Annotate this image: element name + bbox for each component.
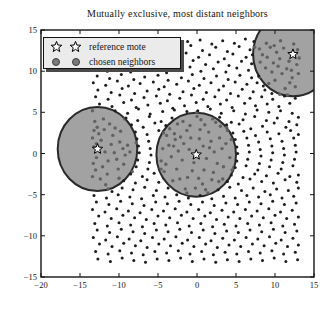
- neighbor-dot: [290, 69, 293, 72]
- mote-dot: [121, 187, 124, 190]
- neighbor-dot: [186, 176, 189, 179]
- mote-dot: [139, 239, 142, 242]
- mote-dot: [221, 209, 224, 212]
- mote-dot: [175, 193, 178, 196]
- y-tick-label: 5: [33, 107, 37, 117]
- mote-dot: [155, 94, 158, 97]
- mote-dot: [136, 119, 139, 122]
- mote-dot: [98, 243, 101, 246]
- neighbor-dot: [221, 177, 224, 180]
- mote-dot: [132, 230, 135, 233]
- mote-dot: [243, 102, 246, 105]
- mote-dot: [130, 99, 133, 102]
- mote-dot: [238, 217, 241, 220]
- mote-dot: [210, 43, 213, 46]
- mote-dot: [276, 117, 279, 120]
- mote-dot: [232, 109, 235, 112]
- mote-dot: [220, 112, 223, 115]
- mote-dot: [281, 161, 284, 164]
- mote-dot: [257, 196, 260, 199]
- neighbor-dot: [194, 186, 197, 189]
- mote-dot: [153, 222, 156, 225]
- mote-dot: [260, 230, 263, 233]
- mote-dot: [138, 151, 141, 154]
- mote-dot: [140, 197, 143, 200]
- mote-dot: [240, 60, 243, 63]
- neighbor-dot: [195, 115, 198, 118]
- neighbor-dot: [202, 168, 205, 171]
- mote-dot: [131, 202, 134, 205]
- neighbor-dot: [181, 120, 184, 123]
- mote-dot: [262, 85, 265, 88]
- mote-dot: [238, 45, 241, 48]
- mote-dot: [256, 210, 259, 213]
- mote-dot: [180, 214, 183, 217]
- mote-dot: [189, 44, 192, 47]
- mote-dot: [244, 38, 247, 41]
- x-tick-label: 0: [195, 280, 199, 290]
- mote-dot: [181, 242, 184, 245]
- mote-dot: [270, 221, 273, 224]
- mote-dot: [146, 103, 149, 106]
- neighbor-dot: [92, 162, 95, 165]
- neighbor-dot: [203, 123, 206, 126]
- mote-dot: [161, 110, 164, 113]
- mote-dot: [260, 155, 263, 158]
- mote-dot: [271, 151, 274, 154]
- neighbor-dot: [209, 140, 212, 143]
- mote-dot: [175, 83, 178, 86]
- mote-dot: [274, 214, 277, 217]
- y-tick-label: −15: [24, 272, 37, 282]
- mote-dot: [249, 48, 252, 51]
- neighbor-dot: [165, 134, 168, 137]
- mote-dot: [294, 144, 297, 147]
- neighbor-dot: [182, 142, 185, 145]
- mote-dot: [137, 145, 140, 148]
- neighbor-dot: [122, 163, 125, 166]
- x-tick-label: −15: [73, 280, 86, 290]
- mote-dot: [108, 231, 111, 234]
- mote-dot: [157, 215, 160, 218]
- neighbor-dot: [253, 46, 256, 49]
- mote-dot: [281, 225, 284, 228]
- mote-dot: [104, 211, 107, 214]
- neighbor-dot: [115, 158, 118, 161]
- mote-dot: [185, 211, 188, 214]
- mote-dot: [272, 182, 275, 185]
- mote-dot: [251, 53, 254, 56]
- neighbor-dot: [220, 147, 223, 150]
- mote-dot: [297, 215, 300, 218]
- mote-dot: [291, 164, 294, 167]
- mote-dot: [165, 71, 168, 74]
- mote-dot: [259, 148, 262, 151]
- mote-dot: [114, 109, 117, 112]
- mote-dot: [270, 92, 273, 95]
- mote-dot: [146, 246, 149, 249]
- mote-dot: [188, 225, 191, 228]
- mote-dot: [256, 81, 259, 84]
- neighbor-dot: [206, 191, 209, 194]
- mote-dot: [248, 201, 251, 204]
- mote-dot: [226, 258, 229, 261]
- neighbor-dot: [296, 48, 299, 51]
- mote-dot: [192, 87, 195, 90]
- mote-dot: [203, 257, 206, 260]
- mote-dot: [177, 69, 180, 72]
- neighbor-dot: [266, 56, 269, 59]
- mote-dot: [110, 91, 113, 94]
- mote-dot: [181, 62, 184, 65]
- mote-dot: [128, 238, 131, 241]
- mote-dot: [217, 188, 220, 191]
- mote-dot: [132, 188, 135, 191]
- mote-dot: [234, 166, 237, 169]
- mote-dot: [260, 95, 263, 98]
- neighbor-dot: [213, 150, 216, 153]
- neighbor-dot: [101, 165, 104, 168]
- mote-dot: [148, 161, 151, 164]
- mote-dot: [242, 118, 245, 121]
- legend-label-reference-mote: reference mote: [89, 42, 146, 52]
- mote-dot: [154, 201, 157, 204]
- mote-dot: [204, 243, 207, 246]
- mote-dot: [186, 238, 189, 241]
- mote-dot: [266, 103, 269, 106]
